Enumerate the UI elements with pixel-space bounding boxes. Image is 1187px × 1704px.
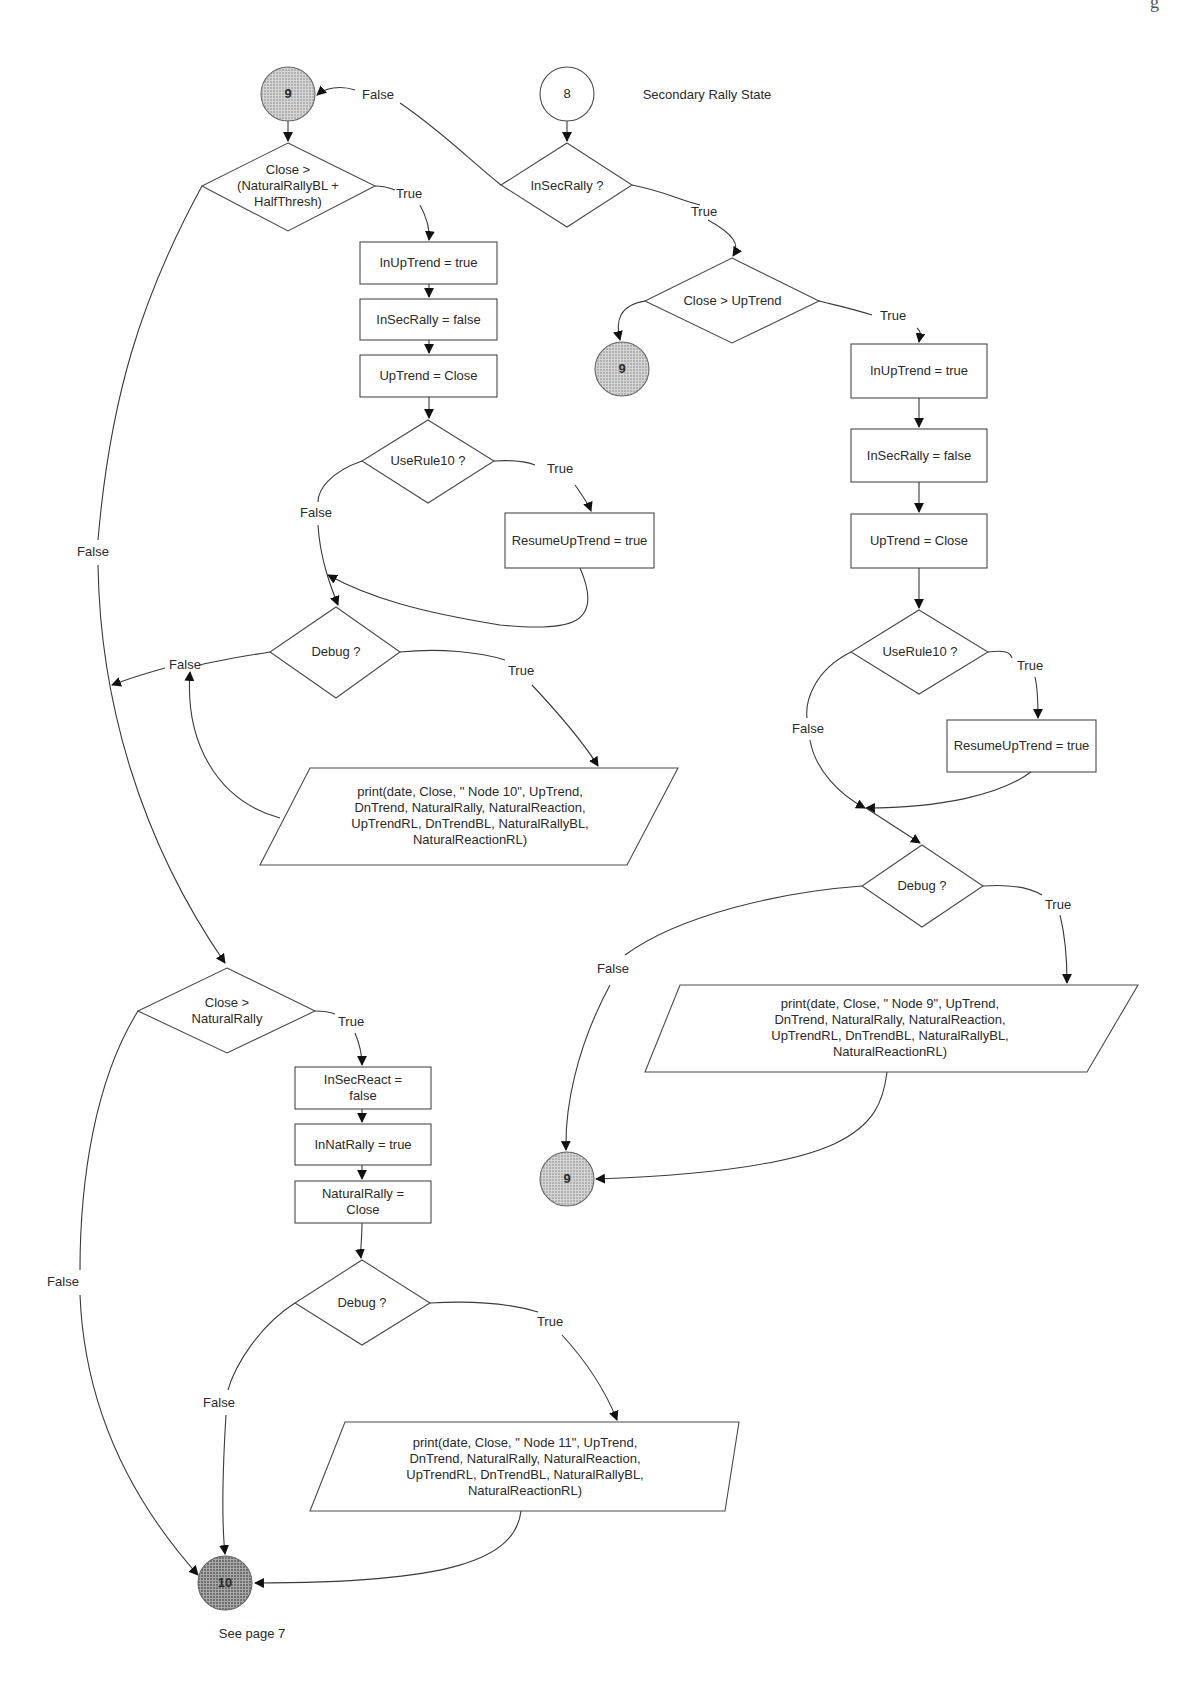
box-l-inuptrend-text: InUpTrend = true [360, 242, 497, 284]
decision-r-debug-text: Debug ? [872, 876, 972, 896]
edge-label-r-userule10-true: True [1017, 658, 1043, 674]
edge-label-natrally-false: False [47, 1274, 79, 1290]
edge-insecrally-true [632, 185, 736, 256]
decision-close-uptrend-text: Close > UpTrend [665, 291, 800, 311]
decision-close-natrally-text: Close > NaturalRally [162, 993, 292, 1029]
edge-halfthresh-false [98, 186, 225, 963]
connector-10-label: 10 [198, 1573, 252, 1593]
edge-label-insecrally-true: True [691, 204, 717, 220]
decision-r-userule10-text: UseRule10 ? [860, 642, 980, 662]
box-l-insecrally-text: InSecRally = false [360, 299, 497, 340]
see-page-note: See page 7 [219, 1626, 286, 1642]
box-b-innatrally-text: InNatRally = true [295, 1124, 431, 1165]
edge-label-b-debug-true: True [537, 1314, 563, 1330]
edge-label-natrally-true: True [338, 1014, 364, 1030]
box-r-resume-text: ResumeUpTrend = true [947, 720, 1096, 772]
edge-label-l-userule10-true: True [547, 461, 573, 477]
box-r-inuptrend-text: InUpTrend = true [851, 344, 987, 398]
box-b-insecreact-text: InSecReact = false [295, 1067, 431, 1109]
decision-insecrally-text: InSecRally ? [507, 176, 627, 196]
edge-l-debug-true [400, 650, 598, 766]
edge-r-to-debug [866, 808, 920, 843]
io-b-print-text: print(date, Close, " Node 11", UpTrend, … [335, 1424, 715, 1509]
edge-label-halfthresh-true: True [396, 186, 422, 202]
edge-l-userule10-false [318, 461, 362, 605]
edge-r-print-to-9 [596, 1072, 887, 1179]
edge-label-close-uptrend-true: True [880, 308, 906, 324]
edge-close-uptrend-false [618, 301, 645, 340]
edge-label-b-debug-false: False [203, 1395, 235, 1411]
edge-label-l-debug-true: True [508, 663, 534, 679]
box-l-uptrend-text: UpTrend = Close [360, 355, 497, 397]
edge-b-debug-false [223, 1303, 295, 1554]
decision-l-debug-text: Debug ? [286, 642, 386, 662]
connector-9-top-label: 9 [261, 84, 315, 104]
box-r-uptrend-text: UpTrend = Close [851, 514, 987, 568]
edge-label-insecrally-false: False [362, 87, 394, 103]
edge-label-halfthresh-false: False [77, 544, 109, 560]
start-node-8-label: 8 [540, 84, 594, 104]
decision-b-debug-text: Debug ? [312, 1293, 412, 1313]
edge-natrally-false [80, 1011, 198, 1575]
edge-b-print-to-10 [255, 1511, 521, 1583]
edge-label-r-debug-false: False [597, 961, 629, 977]
edge-label-r-debug-true: True [1045, 897, 1071, 913]
edge-label-r-userule10-false: False [792, 721, 824, 737]
box-r-insecrally-text: InSecRally = false [851, 429, 987, 482]
connector-9-mid-label: 9 [595, 359, 649, 379]
connector-9-bottom-label: 9 [540, 1169, 594, 1189]
edge-r-resume-back [866, 772, 1031, 808]
edge-l-print-back [189, 672, 280, 818]
edge-l-resume-back [328, 568, 588, 627]
edge-label-l-debug-false: False [169, 657, 201, 673]
box-b-naturalrally-text: NaturalRally = Close [295, 1181, 431, 1223]
io-r-print-text: print(date, Close, " Node 9", UpTrend, D… [670, 987, 1110, 1069]
box-l-resume-text: ResumeUpTrend = true [505, 513, 654, 568]
edge-b-3 [361, 1223, 362, 1258]
edge-l-userule10-true [494, 461, 591, 511]
decision-close-halfthresh-text: Close > (NaturalRallyBL + HalfThresh) [208, 160, 368, 212]
edge-b-debug-true [430, 1302, 617, 1420]
io-l-print-text: print(date, Close, " Node 10", UpTrend, … [290, 770, 650, 862]
edge-label-l-userule10-false: False [300, 505, 332, 521]
decision-l-userule10-text: UseRule10 ? [368, 451, 488, 471]
state-title: Secondary Rally State [643, 87, 772, 103]
